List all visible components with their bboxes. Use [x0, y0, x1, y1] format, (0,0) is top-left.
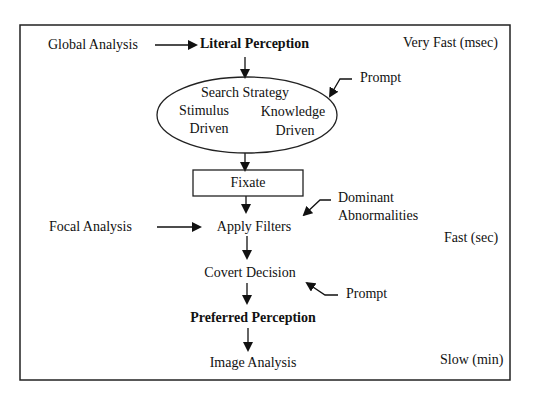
dominant-label: Dominant: [338, 190, 394, 206]
covert-decision-label: Covert Decision: [204, 265, 295, 281]
timescale-very-fast: Very Fast (msec): [403, 35, 498, 51]
preferred-perception-label: Preferred Perception: [190, 310, 316, 326]
diagram-canvas: [0, 0, 544, 395]
focal-analysis-label: Focal Analysis: [49, 219, 132, 235]
stimulus-label: Stimulus: [179, 103, 229, 119]
prompt-label-2: Prompt: [346, 286, 387, 302]
fixate-label: Fixate: [231, 175, 266, 191]
timescale-slow: Slow (min): [440, 352, 503, 368]
image-analysis-label: Image Analysis: [210, 355, 297, 371]
stimulus-driven-label: Driven: [190, 121, 229, 137]
apply-filters-label: Apply Filters: [217, 219, 291, 235]
abnormalities-label: Abnormalities: [338, 208, 418, 224]
prompt-label-1: Prompt: [360, 70, 401, 86]
literal-perception-label: Literal Perception: [200, 36, 309, 52]
prompt-arrow-2: [307, 283, 338, 295]
prompt-arrow-1: [330, 79, 352, 96]
knowledge-label: Knowledge: [261, 104, 326, 120]
global-analysis-label: Global Analysis: [48, 37, 138, 53]
knowledge-driven-label: Driven: [276, 123, 315, 139]
search-strategy-title: Search Strategy: [201, 85, 289, 101]
timescale-fast: Fast (sec): [444, 230, 498, 246]
dominant-arrow: [304, 200, 331, 215]
